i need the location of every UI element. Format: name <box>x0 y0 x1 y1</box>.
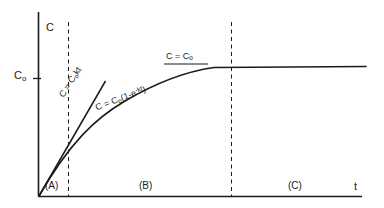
equation-plateau-label: C = Co <box>166 52 193 62</box>
region-label-a: (A) <box>45 181 58 191</box>
x-axis-label: t <box>354 181 357 192</box>
exponential-curve <box>39 67 366 197</box>
y-axis-tick-label-text: C <box>14 69 22 81</box>
y-axis-tick-label-subscript: o <box>22 74 26 83</box>
equation-plateau-subscript: o <box>189 54 193 61</box>
region-label-c: (C) <box>288 181 302 191</box>
y-axis-label: C <box>46 22 54 33</box>
y-axis-tick-label: Co <box>14 70 26 83</box>
concentration-vs-time-figure: C Co t (A) (B) (C) C = Cokt C = Co(1-e-k… <box>0 0 384 208</box>
equation-plateau-lhs: C = C <box>166 51 189 61</box>
plot-canvas <box>0 0 384 208</box>
region-label-b: (B) <box>139 181 152 191</box>
